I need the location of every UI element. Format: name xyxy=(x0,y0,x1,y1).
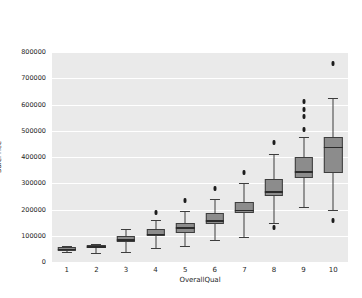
cap-lower xyxy=(269,223,279,224)
outlier-marker xyxy=(272,225,275,230)
box-iqr xyxy=(235,202,253,214)
median-line xyxy=(58,249,76,251)
whisker-lower xyxy=(333,173,334,210)
whisker-lower xyxy=(155,236,156,248)
outlier-marker xyxy=(213,186,216,191)
x-tick-label: 1 xyxy=(55,266,79,274)
median-line xyxy=(87,246,105,248)
x-tick-label: 10 xyxy=(321,266,345,274)
cap-upper xyxy=(151,220,161,221)
whisker-lower xyxy=(214,224,215,240)
boxplot-figure: SalePrice 010000020000030000040000050000… xyxy=(0,28,362,298)
cap-upper xyxy=(239,183,249,184)
outlier-marker xyxy=(272,140,275,145)
outlier-marker xyxy=(332,218,335,223)
cap-upper xyxy=(299,137,309,138)
box-plot-item xyxy=(170,52,200,262)
median-line xyxy=(146,234,164,236)
y-tick-label: 800000 xyxy=(0,48,46,56)
x-tick-label: 6 xyxy=(203,266,227,274)
cap-upper xyxy=(328,98,338,99)
plot-area xyxy=(52,52,348,262)
cap-upper xyxy=(269,154,279,155)
y-tick-label: 100000 xyxy=(0,232,46,240)
y-tick-label: 0 xyxy=(0,258,46,266)
box-iqr xyxy=(265,179,283,196)
x-tick-label: 8 xyxy=(262,266,286,274)
x-tick-label: 4 xyxy=(144,266,168,274)
cap-lower xyxy=(239,237,249,238)
whisker-upper xyxy=(214,199,215,213)
y-tick-label: 200000 xyxy=(0,206,46,214)
box-iqr xyxy=(324,137,342,172)
box-plot-item xyxy=(141,52,171,262)
whisker-upper xyxy=(155,220,156,229)
whisker-lower xyxy=(273,196,274,222)
box-plot-item xyxy=(289,52,319,262)
median-line xyxy=(176,227,194,229)
cap-lower xyxy=(299,207,309,208)
whisker-upper xyxy=(333,98,334,137)
outlier-marker xyxy=(302,107,305,112)
cap-lower xyxy=(180,246,190,247)
cap-upper xyxy=(210,199,220,200)
y-tick-label: 300000 xyxy=(0,179,46,187)
y-tick-label: 400000 xyxy=(0,153,46,161)
x-tick-label: 3 xyxy=(114,266,138,274)
x-tick-label: 2 xyxy=(84,266,108,274)
cap-upper xyxy=(180,211,190,212)
cap-lower xyxy=(151,248,161,249)
x-tick-label: 5 xyxy=(173,266,197,274)
whisker-lower xyxy=(185,233,186,246)
outlier-marker xyxy=(302,114,305,119)
cap-lower xyxy=(91,253,101,254)
outlier-marker xyxy=(302,99,305,104)
cap-upper xyxy=(121,229,131,230)
cap-lower xyxy=(121,252,131,253)
outlier-marker xyxy=(184,198,187,203)
box-plot-item xyxy=(200,52,230,262)
box-iqr xyxy=(294,157,312,178)
cap-lower xyxy=(210,240,220,241)
y-tick-label: 700000 xyxy=(0,74,46,82)
whisker-upper xyxy=(185,211,186,223)
y-tick-label: 600000 xyxy=(0,101,46,109)
box-plot-item xyxy=(318,52,348,262)
median-line xyxy=(206,220,224,222)
outlier-marker xyxy=(332,61,335,66)
box-plot-item xyxy=(52,52,82,262)
median-line xyxy=(235,210,253,212)
cap-lower xyxy=(328,210,338,211)
whisker-lower xyxy=(244,213,245,236)
whisker-lower xyxy=(303,178,304,207)
box-plot-item xyxy=(82,52,112,262)
cap-lower xyxy=(62,252,72,253)
x-axis-label: OverallQual xyxy=(52,276,348,284)
x-tick-label: 7 xyxy=(232,266,256,274)
box-plot-item xyxy=(259,52,289,262)
box-plot-item xyxy=(230,52,260,262)
median-line xyxy=(324,147,342,149)
whisker-upper xyxy=(273,154,274,179)
outlier-marker xyxy=(302,127,305,132)
whisker-lower xyxy=(125,242,126,252)
median-line xyxy=(117,239,135,241)
box-iqr xyxy=(206,213,224,224)
outlier-marker xyxy=(243,170,246,175)
x-tick-label: 9 xyxy=(292,266,316,274)
y-tick-label: 500000 xyxy=(0,127,46,135)
box-plot-item xyxy=(111,52,141,262)
median-line xyxy=(265,191,283,193)
median-line xyxy=(294,171,312,173)
whisker-upper xyxy=(244,183,245,201)
whisker-upper xyxy=(303,137,304,157)
outlier-marker xyxy=(154,210,157,215)
